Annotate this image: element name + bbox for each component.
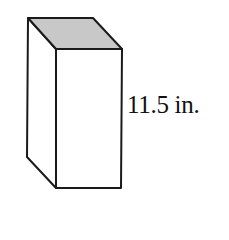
height-dimension-label: 11.5 in. bbox=[127, 92, 199, 117]
prism-front-face bbox=[56, 49, 122, 188]
